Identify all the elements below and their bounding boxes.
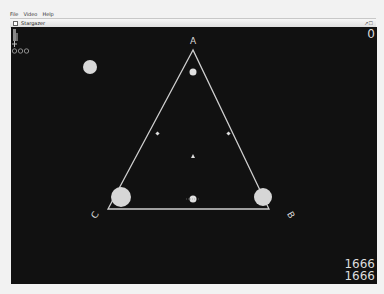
menu-file[interactable]: File	[10, 10, 18, 18]
planet-top-left	[83, 60, 97, 74]
status-icons	[11, 27, 35, 55]
game-canvas[interactable]: A C B 0 1666 1666	[11, 27, 377, 284]
body-near-c	[111, 187, 131, 207]
life-icon-2	[18, 49, 22, 53]
vertex-label-c: C	[89, 210, 101, 220]
menu-help[interactable]: Help	[42, 10, 53, 18]
fuel-gauge-icon-2	[16, 33, 18, 41]
menu-video[interactable]: Video	[23, 10, 37, 18]
fuel-gauge-icon	[13, 29, 16, 41]
life-icon-3	[24, 49, 28, 53]
life-icon-1	[12, 49, 16, 53]
marker-left	[155, 131, 159, 135]
marker-right	[226, 131, 230, 135]
body-near-b	[254, 188, 272, 206]
triangle-orbit	[108, 50, 269, 209]
body-near-a	[190, 69, 197, 76]
game-scene: A C B	[11, 27, 377, 284]
vertex-label-b: B	[285, 210, 297, 220]
score-bottom-2: 1666	[344, 270, 375, 282]
window-icon	[13, 21, 18, 26]
vertex-label-a: A	[190, 36, 197, 46]
ship-center	[191, 154, 195, 158]
score-top: 0	[367, 28, 375, 40]
menu-bar: File Video Help	[10, 10, 54, 18]
